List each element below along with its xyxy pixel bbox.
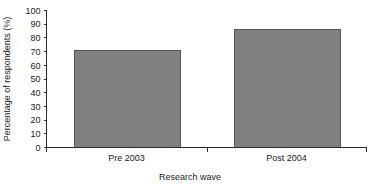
y-tick-label: 70 <box>30 47 40 57</box>
bar-chart-figure: Percentage of respondents (%) 0102030405… <box>0 0 374 184</box>
y-tick-label: 30 <box>30 102 40 112</box>
y-tick-label: 90 <box>30 19 40 29</box>
x-axis-title: Research wave <box>159 172 221 182</box>
y-tick-label: 10 <box>30 129 40 139</box>
y-tick-label: 100 <box>25 6 40 16</box>
x-tick-label: Pre 2003 <box>108 153 145 163</box>
chart-canvas: Percentage of respondents (%) 0102030405… <box>0 0 374 184</box>
y-axis-title: Percentage of respondents (%) <box>2 17 12 142</box>
y-tick-label: 0 <box>35 143 40 153</box>
y-tick-label: 40 <box>30 88 40 98</box>
y-tick-label: 50 <box>30 74 40 84</box>
bar-pre-2003 <box>75 50 181 147</box>
bar-post-2004 <box>235 30 341 148</box>
y-tick-label: 20 <box>30 115 40 125</box>
x-tick-label: Post 2004 <box>266 153 307 163</box>
y-tick-label: 60 <box>30 61 40 71</box>
y-tick-label: 80 <box>30 33 40 43</box>
